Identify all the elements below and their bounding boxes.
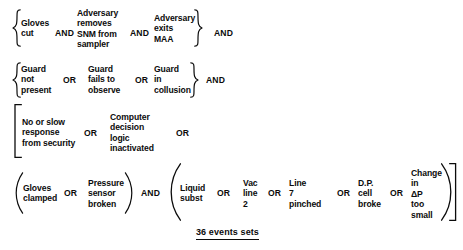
row5-term-3: Line 7 pinched	[289, 178, 321, 209]
row3-term-1: No or slow response from security	[22, 117, 75, 148]
row2-term-2: Guard fails to observe	[88, 64, 120, 95]
row3-left-square-bracket	[14, 104, 22, 158]
row1-term-1: Gloves cut	[21, 18, 49, 39]
row5-term-2: Vac line 2	[243, 178, 258, 209]
row1-left-curly-brace	[12, 9, 21, 47]
row5-operator-4: OR	[390, 188, 403, 198]
row4-operator-1: OR	[64, 188, 77, 198]
row1-term-2: Adversary removes SNM from sampler	[77, 8, 118, 50]
row4-term-1: Gloves clamped	[23, 183, 57, 204]
row4-term-2: Pressure sensor broken	[88, 178, 124, 209]
event-set-diagram: Gloves cut AND Adversary removes SNM fro…	[0, 0, 463, 250]
row1-operator-2: AND	[130, 28, 149, 38]
row5-term-4: D.P. cell broke	[358, 178, 381, 209]
row5-term-5: Change in ΔP too small	[411, 168, 442, 220]
row5-operator-2: OR	[268, 188, 281, 198]
row1-right-curly-brace	[194, 9, 203, 47]
outer-right-square-bracket	[449, 163, 457, 221]
row3-operator-1: OR	[84, 128, 97, 138]
diagram-caption: 36 events sets	[196, 227, 259, 240]
row5-operator-1: OR	[217, 188, 230, 198]
row4-right-paren	[124, 172, 133, 214]
row2-right-curly-brace	[190, 62, 199, 98]
row2-operator-1: OR	[63, 75, 76, 85]
row5-term-1: Liquid subst	[180, 183, 205, 204]
row2-trailing-operator: AND	[206, 75, 225, 85]
row4-trailing-operator: AND	[141, 188, 160, 198]
row2-left-curly-brace	[12, 62, 21, 98]
row2-term-1: Guard not present	[21, 64, 51, 95]
row2-operator-2: OR	[135, 75, 148, 85]
row2-term-3: Guard in collusion	[154, 64, 191, 95]
row1-term-3: Adversary exits MAA	[154, 13, 195, 44]
row3-trailing-operator: OR	[176, 128, 189, 138]
row3-term-2: Computer decision logic inactivated	[110, 112, 154, 154]
row1-trailing-operator: AND	[214, 28, 233, 38]
row1-operator-1: AND	[55, 28, 74, 38]
row5-operator-3: OR	[337, 188, 350, 198]
